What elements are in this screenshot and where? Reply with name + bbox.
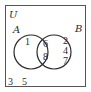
set-b-label: B xyxy=(74,23,82,34)
outside-value: 3 xyxy=(8,76,13,87)
intersection-value: 8 xyxy=(43,51,48,62)
venn-diagram: U A B 1 6 8 2 4 7 3 5 xyxy=(0,0,91,92)
a-only-value: 1 xyxy=(25,36,30,47)
intersection-value: 6 xyxy=(43,38,48,49)
universe-label: U xyxy=(9,9,18,20)
b-only-value: 7 xyxy=(63,55,68,66)
set-a-label: A xyxy=(12,24,20,35)
outside-value: 5 xyxy=(22,76,27,87)
